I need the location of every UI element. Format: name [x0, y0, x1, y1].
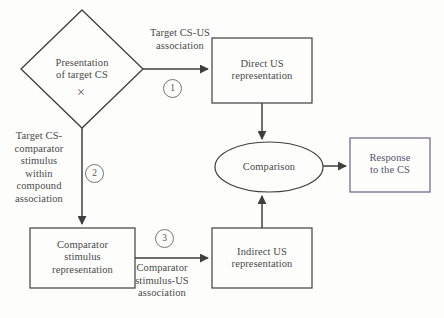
target-cs-comparator-line-1: Target CS- [2, 130, 76, 143]
cross-mark-icon: × [77, 86, 85, 100]
presentation-diamond-shape [21, 10, 143, 128]
comparator-stimulus-us-line-3: association [118, 287, 206, 300]
target-cs-comparator-line-5: compound [2, 180, 76, 193]
edge-label-comparator-stimulus-us: Comparator stimulus-US association [118, 262, 206, 300]
target-cs-comparator-line-2: comparator [2, 143, 76, 156]
indirect-us-box-shape [212, 228, 312, 288]
target-cs-comparator-line-4: within [2, 168, 76, 181]
edge-label-target-cs-comparator: Target CS- comparator stimulus within co… [2, 130, 76, 206]
response-box-shape [350, 138, 430, 192]
edge-label-target-cs-us: Target CS-US association [140, 27, 220, 52]
step-badge-3: 3 [155, 229, 174, 248]
direct-us-box-shape [212, 38, 312, 103]
comparator-stimulus-us-line-2: stimulus-US [118, 275, 206, 288]
step-badge-2: 2 [85, 164, 104, 183]
diagram-canvas: Presentation of target CS × Direct US re… [0, 0, 444, 318]
target-cs-us-line-2: association [140, 40, 220, 53]
target-cs-comparator-line-3: stimulus [2, 155, 76, 168]
target-cs-comparator-line-6: association [2, 193, 76, 206]
target-cs-us-line-1: Target CS-US [140, 27, 220, 40]
step-badge-1: 1 [163, 79, 182, 98]
comparison-ellipse-shape [215, 142, 323, 192]
comparator-stimulus-us-line-1: Comparator [118, 262, 206, 275]
